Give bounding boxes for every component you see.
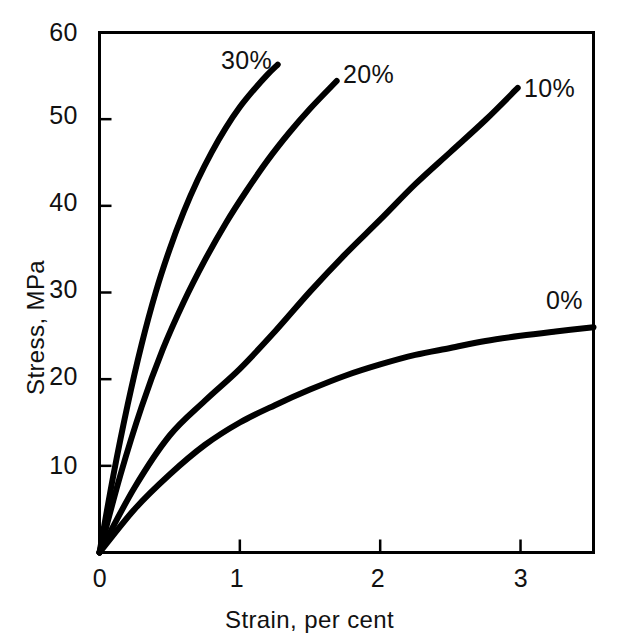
x-tick-label-0: 0 [88,566,112,591]
series-label-0: 0% [546,288,583,313]
y-tick-label-20: 20 [49,364,78,389]
series-label-10: 10% [524,76,575,101]
y-tick-label-60: 60 [49,20,78,45]
series-label-30: 30% [221,48,272,73]
y-axis-title: Stress, MPa [24,260,48,395]
y-tick-label-50: 50 [49,103,78,128]
series-label-20: 20% [343,62,394,87]
x-tick-label-3: 3 [509,566,533,591]
y-tick-label-40: 40 [49,190,78,215]
x-axis-title: Strain, per cent [225,608,394,632]
y-tick-label-10: 10 [49,453,78,478]
x-tick-label-2: 2 [366,566,390,591]
y-tick-label-30: 30 [49,277,78,302]
stress-strain-chart: 60 50 40 30 20 10 0 1 2 3 30% 20% 10% 0%… [0,0,617,640]
x-tick-label-1: 1 [225,566,249,591]
